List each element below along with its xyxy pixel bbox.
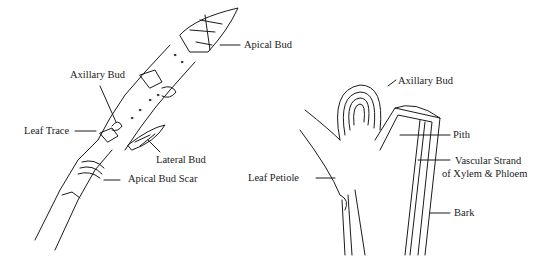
label-axillary-bud-right: Axillary Bud	[398, 75, 453, 87]
label-apical-bud: Apical Bud	[244, 39, 292, 51]
label-apical-bud-scar: Apical Bud Scar	[128, 173, 197, 185]
label-leaf-petiole: Leaf Petiole	[248, 172, 299, 184]
label-pith: Pith	[453, 129, 470, 141]
label-leaf-trace: Leaf Trace	[24, 125, 69, 137]
label-bark: Bark	[454, 207, 474, 219]
section-drawing	[300, 80, 450, 255]
label-xylem-phloem: of Xylem & Phloem	[442, 168, 527, 180]
label-lateral-bud: Lateral Bud	[156, 154, 206, 166]
label-vascular-strand: Vascular Strand	[455, 155, 521, 167]
label-axillary-bud-left: Axillary Bud	[70, 69, 125, 81]
